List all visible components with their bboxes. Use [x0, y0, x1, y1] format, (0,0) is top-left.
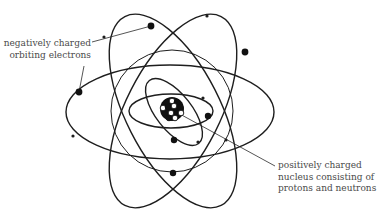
neutron — [178, 110, 184, 116]
orbit-marker — [205, 14, 208, 17]
electron — [242, 49, 249, 56]
proton — [177, 104, 183, 110]
electron — [205, 113, 211, 119]
orbit-marker — [102, 35, 105, 38]
proton — [165, 104, 171, 110]
electron — [76, 89, 83, 96]
electrons-label-line-1: negatively charged — [4, 38, 91, 50]
electron — [171, 137, 177, 143]
nucleus-label-line-3: protons and neutrons — [278, 183, 376, 195]
neutron — [171, 103, 177, 109]
orbit-marker — [224, 138, 227, 141]
nucleus-label-line-2: nucleus consisting of — [278, 172, 376, 184]
nucleus-label: positively charged nucleus consisting of… — [278, 160, 376, 195]
proton — [166, 115, 172, 121]
electrons-label: negatively charged orbiting electrons — [4, 38, 91, 61]
electrons-label-line-2: orbiting electrons — [4, 50, 91, 62]
orbit-marker — [196, 140, 199, 143]
nucleus — [160, 97, 184, 121]
orbit-marker — [71, 134, 74, 137]
electron — [148, 23, 155, 30]
orbit-marker — [201, 96, 204, 99]
electron — [170, 170, 176, 176]
neutron — [172, 115, 178, 121]
nucleus-label-line-1: positively charged — [278, 160, 376, 172]
electron-leader-line-1 — [92, 26, 151, 42]
